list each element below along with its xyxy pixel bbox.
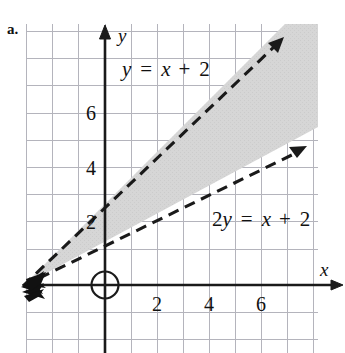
- upper-eq-lhs: y: [120, 57, 132, 81]
- lower-eq-lhs: y: [221, 207, 233, 231]
- x-tick-4: 4: [204, 293, 214, 315]
- x-axis-label: x: [319, 259, 329, 280]
- upper-eq-plus: +: [179, 57, 191, 81]
- upper-eq-equals: =: [140, 57, 152, 81]
- y-axis-arrowhead: [100, 25, 111, 39]
- svg-text:y=x+2: y=x+2: [120, 57, 210, 81]
- graph-figure: a.: [0, 0, 345, 353]
- x-axis-arrowhead: [331, 280, 343, 290]
- lower-eq-equals: =: [241, 207, 253, 231]
- y-tick-6: 6: [86, 102, 96, 124]
- y-axis-label: y: [116, 25, 127, 46]
- upper-eq-var: x: [160, 57, 171, 81]
- coordinate-plane: 2 4 6 2 4 6 y x y=x+2 2y=x+2: [0, 0, 345, 353]
- lower-eq-plus: +: [279, 207, 291, 231]
- x-tick-6: 6: [256, 293, 266, 315]
- y-axis-tick-labels: 2 4 6: [86, 102, 96, 233]
- annotation-lower-line: 2y=x+2: [212, 207, 310, 231]
- x-tick-2: 2: [152, 293, 162, 315]
- y-tick-2: 2: [86, 211, 96, 233]
- lower-eq-var: x: [261, 207, 272, 231]
- lower-eq-num: 2: [300, 207, 311, 231]
- lower-eq-coef: 2: [212, 207, 223, 231]
- y-tick-4: 4: [86, 157, 96, 179]
- annotation-upper-line: y=x+2: [120, 57, 210, 81]
- upper-eq-num: 2: [199, 57, 210, 81]
- svg-text:2y=x+2: 2y=x+2: [212, 207, 310, 231]
